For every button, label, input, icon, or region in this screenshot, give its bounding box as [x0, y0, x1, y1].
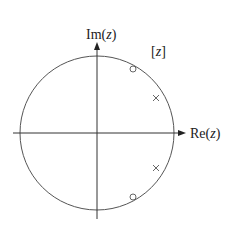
imag-axis-label: Im(z) — [86, 27, 117, 43]
region-label: [z] — [151, 44, 166, 59]
imag-axis-arrowhead-icon — [94, 42, 100, 50]
pole-zero-diagram: Im(z) [z] Re(z) — [0, 0, 230, 225]
real-axis-label: Re(z) — [190, 126, 221, 142]
real-axis-arrowhead-icon — [178, 130, 186, 136]
zero-marker-upper — [130, 66, 136, 72]
pole-marker-upper — [153, 95, 159, 101]
pole-marker-lower — [153, 165, 159, 171]
zero-marker-lower — [130, 194, 136, 200]
